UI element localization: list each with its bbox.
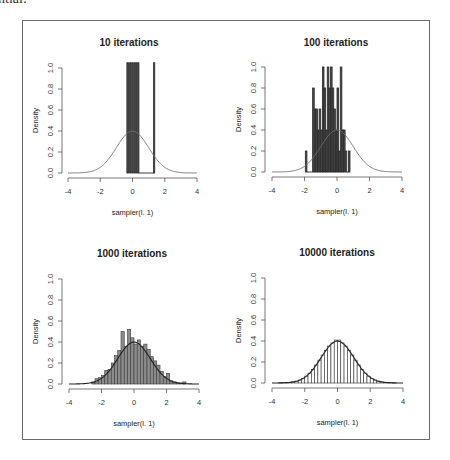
histogram-bar — [318, 360, 321, 383]
histogram-bar — [321, 355, 324, 383]
histogram-bar — [141, 346, 144, 384]
x-tick-label: 0 — [335, 186, 339, 195]
histogram-bar — [344, 346, 347, 383]
x-tick-label: 0 — [132, 398, 136, 407]
histogram-bar — [127, 63, 129, 173]
y-axis-label: Density — [31, 108, 40, 133]
x-tick-label: 2 — [367, 186, 371, 195]
y-tick-label: 0.4 — [249, 125, 258, 135]
panel-title: 1000 iterations — [97, 248, 167, 259]
y-tick-label: 0.8 — [249, 83, 258, 93]
x-tick-label: -2 — [98, 398, 105, 407]
panel-1000-iterations: 1000 iterations 0.00.20.40.60.81.0 -4-20… — [31, 248, 201, 428]
histogram-bar — [334, 340, 337, 383]
y-axis-label: Density — [234, 318, 243, 343]
histogram-bars — [127, 63, 155, 173]
histogram-bar — [345, 151, 347, 172]
histogram-bar — [134, 344, 137, 384]
histogram-bar — [331, 343, 334, 383]
panel-title: 100 iterations — [304, 37, 369, 48]
histogram-bar — [357, 365, 360, 383]
histogram-bar — [315, 365, 318, 383]
y-axis: 0.00.20.40.60.81.0 — [46, 63, 62, 178]
x-axis: -4-2024 — [66, 389, 201, 407]
y-tick-label: 0.8 — [249, 294, 258, 304]
panel-title: 10000 iterations — [299, 247, 375, 258]
histogram-bar — [354, 360, 357, 383]
y-axis-label: Density — [31, 319, 40, 344]
y-tick-label: 0.2 — [46, 147, 55, 157]
y-axis: 0.00.20.40.60.81.0 — [46, 274, 62, 389]
x-tick-label: -4 — [66, 398, 73, 407]
histogram-bar — [124, 346, 127, 384]
histogram-bars — [279, 340, 397, 383]
y-tick-label: 0.2 — [46, 358, 55, 368]
x-axis: -4-2024 — [65, 178, 199, 196]
histogram-bar — [305, 151, 307, 172]
x-tick-label: 2 — [368, 397, 372, 406]
y-axis: 0.00.20.40.60.81.0 — [249, 273, 265, 388]
x-axis: -4-2024 — [269, 177, 404, 195]
x-axis-label: sampler(l. 1) — [112, 208, 154, 217]
figure-page: ntial: 10 iterations 0.00.20.40.60.81.0 … — [0, 0, 450, 460]
histogram-bar — [131, 338, 134, 384]
y-tick-label: 1.0 — [249, 273, 258, 283]
x-axis-label: sampler(l. 1) — [316, 207, 358, 216]
x-tick-label: 2 — [163, 187, 167, 196]
histogram-bar — [324, 350, 327, 383]
x-tick-label: -2 — [301, 397, 308, 406]
panel-title: 10 iterations — [100, 37, 159, 48]
x-tick-label: 4 — [197, 398, 201, 407]
y-tick-label: 0.0 — [46, 379, 55, 389]
x-tick-label: 0 — [130, 187, 134, 196]
y-tick-label: 0.4 — [46, 126, 55, 136]
x-tick-label: 4 — [195, 187, 199, 196]
histogram-bar — [347, 350, 350, 383]
histogram-bar — [137, 63, 139, 173]
y-axis-label: Density — [234, 107, 243, 132]
x-tick-label: 4 — [400, 186, 404, 195]
histogram-bar — [129, 63, 131, 173]
y-tick-label: 0.6 — [249, 104, 258, 114]
x-tick-label: -4 — [269, 397, 276, 406]
histogram-bar — [121, 332, 124, 385]
y-tick-label: 0.0 — [249, 167, 258, 177]
y-axis: 0.00.20.40.60.81.0 — [249, 62, 265, 177]
x-tick-label: 2 — [164, 398, 168, 407]
y-tick-label: 1.0 — [249, 62, 258, 72]
x-tick-label: -2 — [301, 186, 308, 195]
histogram-bar — [338, 340, 341, 383]
histogram-bar — [134, 63, 136, 173]
histogram-bar — [348, 151, 350, 172]
y-tick-label: 0.6 — [46, 316, 55, 326]
histogram-bar — [132, 63, 134, 173]
x-axis: -4-2024 — [269, 388, 405, 406]
histogram-bars — [92, 329, 186, 384]
panel-10000-iterations: 10000 iterations 0.00.20.40.60.81.0 -4-2… — [234, 247, 405, 427]
y-tick-label: 0.6 — [249, 315, 258, 325]
y-tick-label: 0.0 — [249, 378, 258, 388]
y-tick-label: 0.8 — [46, 84, 55, 94]
panel-10-iterations: 10 iterations 0.00.20.40.60.81.0 -4-2024… — [31, 37, 199, 217]
histogram-bars — [305, 67, 350, 172]
y-tick-label: 0.2 — [249, 146, 258, 156]
histogram-bar — [341, 343, 344, 383]
histogram-grid: 10 iterations 0.00.20.40.60.81.0 -4-2024… — [0, 0, 450, 460]
x-tick-label: -2 — [97, 187, 104, 196]
histogram-bar — [128, 329, 131, 384]
histogram-bar — [157, 365, 160, 384]
y-tick-label: 1.0 — [46, 63, 55, 73]
histogram-bar — [351, 355, 354, 383]
x-axis-label: sampler(l. 1) — [113, 419, 155, 428]
histogram-bar — [328, 346, 331, 383]
x-tick-label: 4 — [401, 397, 405, 406]
y-tick-label: 0.4 — [249, 336, 258, 346]
x-tick-label: -4 — [65, 187, 72, 196]
histogram-bar — [137, 340, 140, 384]
y-tick-label: 0.8 — [46, 295, 55, 305]
y-tick-label: 0.0 — [46, 168, 55, 178]
panel-100-iterations: 100 iterations 0.00.20.40.60.81.0 -4-202… — [234, 37, 404, 216]
y-tick-label: 0.6 — [46, 105, 55, 115]
x-tick-label: 0 — [335, 397, 339, 406]
x-tick-label: -4 — [269, 186, 276, 195]
